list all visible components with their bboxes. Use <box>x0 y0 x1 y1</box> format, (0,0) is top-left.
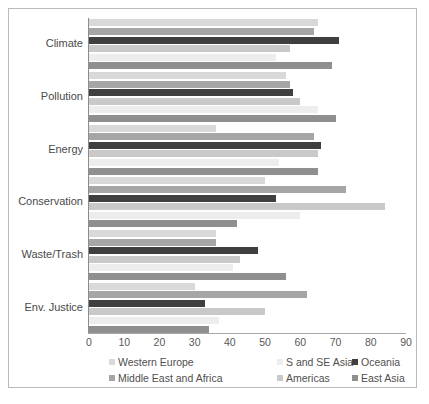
bar <box>89 264 233 271</box>
category-label: Energy <box>48 143 83 155</box>
plot-area <box>88 18 406 334</box>
x-tick-label: 20 <box>154 336 166 348</box>
legend-item[interactable]: Americas <box>277 372 330 384</box>
bar <box>89 186 346 193</box>
bar <box>89 326 209 333</box>
legend-item[interactable]: S and SE Asia <box>277 356 353 368</box>
legend-row-1: Western EuropeS and SE AsiaOceania <box>109 356 409 371</box>
legend-swatch-icon <box>352 359 358 365</box>
x-axis-tick-labels: 0102030405060708090 <box>88 336 408 352</box>
legend-item[interactable]: East Asia <box>352 372 405 384</box>
bar <box>89 19 318 26</box>
x-tick-label: 70 <box>330 336 342 348</box>
bar <box>89 291 307 298</box>
legend-row-2: Middle East and AfricaAmericasEast Asia <box>109 372 409 387</box>
legend-label: Oceania <box>361 356 400 368</box>
bar-group <box>89 72 406 122</box>
legend-swatch-icon <box>277 375 283 381</box>
bar <box>89 54 276 61</box>
bar-group <box>89 125 406 175</box>
chart-container: ClimatePollutionEnergyConservationWaste/… <box>8 8 417 388</box>
bar <box>89 168 318 175</box>
chart-legend: Western EuropeS and SE AsiaOceania Middl… <box>109 356 409 388</box>
bar <box>89 45 290 52</box>
legend-swatch-icon <box>109 375 115 381</box>
x-tick-label: 40 <box>224 336 236 348</box>
legend-label: East Asia <box>361 372 405 384</box>
legend-label: Middle East and Africa <box>118 372 222 384</box>
x-tick-label: 80 <box>365 336 377 348</box>
legend-label: Western Europe <box>118 356 194 368</box>
bar <box>89 203 385 210</box>
category-label: Climate <box>46 37 83 49</box>
legend-swatch-icon <box>277 359 283 365</box>
x-axis-line <box>88 333 406 334</box>
category-label: Env. Justice <box>25 301 84 313</box>
bar <box>89 159 279 166</box>
bar <box>89 317 219 324</box>
bar-group <box>89 230 406 280</box>
legend-swatch-icon <box>109 359 115 365</box>
bar <box>89 308 265 315</box>
bar <box>89 125 216 132</box>
bar <box>89 212 300 219</box>
bar <box>89 98 300 105</box>
x-tick-label: 90 <box>400 336 412 348</box>
x-tick-label: 0 <box>86 336 92 348</box>
bar <box>89 150 318 157</box>
bar-group <box>89 19 406 69</box>
x-tick-label: 10 <box>118 336 130 348</box>
bar <box>89 62 332 69</box>
legend-swatch-icon <box>352 375 358 381</box>
category-label: Waste/Trash <box>21 248 83 260</box>
category-label: Conservation <box>18 195 83 207</box>
x-tick-label: 30 <box>189 336 201 348</box>
bar <box>89 256 240 263</box>
x-tick-label: 50 <box>259 336 271 348</box>
bar <box>89 177 265 184</box>
bar <box>89 142 321 149</box>
bar <box>89 28 314 35</box>
bar <box>89 273 286 280</box>
bar-group <box>89 283 406 333</box>
bar <box>89 89 293 96</box>
legend-label: S and SE Asia <box>286 356 353 368</box>
legend-item[interactable]: Middle East and Africa <box>109 372 222 384</box>
bar <box>89 220 237 227</box>
legend-label: Americas <box>286 372 330 384</box>
bar <box>89 115 336 122</box>
category-axis-labels: ClimatePollutionEnergyConservationWaste/… <box>9 18 83 334</box>
category-label: Pollution <box>41 90 83 102</box>
bar <box>89 195 276 202</box>
bar <box>89 133 314 140</box>
legend-item[interactable]: Oceania <box>352 356 400 368</box>
bar <box>89 106 318 113</box>
bar <box>89 72 286 79</box>
bar <box>89 247 258 254</box>
x-tick-label: 60 <box>294 336 306 348</box>
legend-item[interactable]: Western Europe <box>109 356 194 368</box>
bar <box>89 230 216 237</box>
bar <box>89 283 195 290</box>
bar <box>89 81 290 88</box>
bar <box>89 37 339 44</box>
bar <box>89 300 205 307</box>
bar <box>89 239 216 246</box>
bar-group <box>89 177 406 227</box>
